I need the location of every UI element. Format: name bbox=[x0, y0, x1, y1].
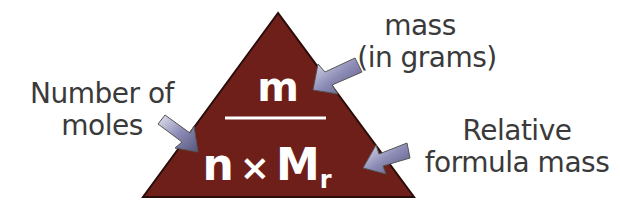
label-moles-line2: moles bbox=[22, 110, 182, 142]
label-moles-line1: Number of bbox=[22, 78, 182, 110]
label-mass-line1: mass bbox=[370, 10, 470, 42]
label-moles: Number of moles bbox=[22, 78, 182, 142]
label-rfm-line2: formula mass bbox=[422, 147, 612, 179]
label-mass: mass bbox=[370, 10, 470, 42]
numerator-m: m bbox=[257, 64, 299, 110]
label-mass-unit: (in grams) bbox=[357, 42, 497, 74]
label-rfm-line1: Relative bbox=[422, 115, 612, 147]
arrow-icon-mass bbox=[313, 58, 362, 94]
label-rfm: Relative formula mass bbox=[422, 115, 612, 179]
denominator-formula: n×Mr bbox=[202, 139, 331, 194]
label-mass-line2: (in grams) bbox=[357, 42, 497, 74]
